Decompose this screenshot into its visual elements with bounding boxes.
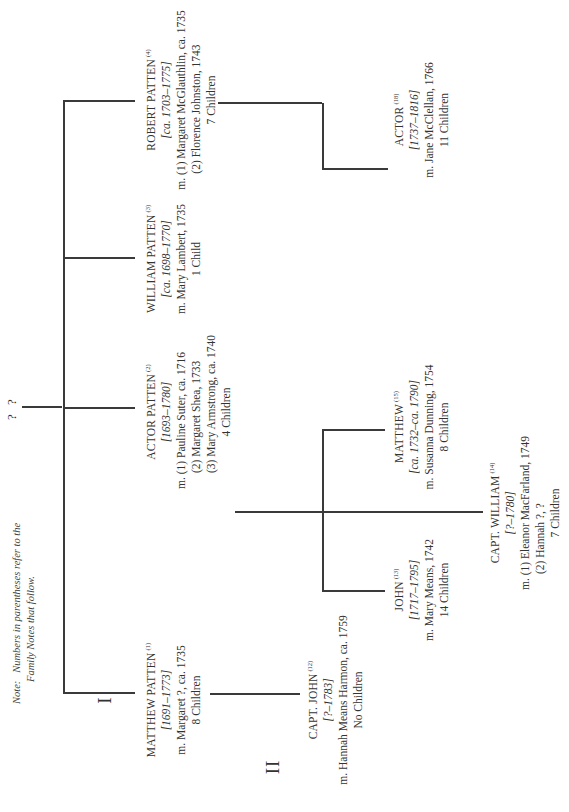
marriage-1: m. Susanna Dunning, 1754	[422, 365, 437, 490]
note-ref: (14)	[488, 463, 495, 474]
children-count: 8 Children	[189, 643, 204, 757]
person-name: ACTOR	[393, 107, 405, 147]
generation-label-1: I	[94, 696, 116, 703]
person-actor: ACTOR(18) [1737–1816] m. Jane McClellan,…	[388, 62, 452, 177]
drop-william-patten	[63, 258, 135, 260]
person-name: CAPT. JOHN	[307, 674, 319, 740]
person-name: MATTHEW	[393, 404, 405, 463]
children-count: 8 Children	[437, 365, 452, 490]
connector-actor-patten-children	[235, 512, 483, 514]
note-ref: (4)	[144, 49, 151, 57]
children-count: 7 Children	[204, 10, 219, 189]
children-count: 11 Children	[437, 62, 452, 177]
note-ref: (18)	[392, 94, 399, 105]
note-ref: (12)	[306, 661, 313, 672]
children-count: 4 Children	[219, 335, 234, 489]
person-name: WILLIAM PATTEN	[145, 215, 157, 314]
drop-matthew	[322, 430, 385, 432]
marriage-2: (2) Margaret Shea, 1733	[189, 335, 204, 489]
person-matthew: MATTHEW(15) [ca. 1732–ca. 1790] m. Susan…	[388, 365, 452, 490]
note-ref: (15)	[392, 391, 399, 402]
person-matthew-patten: MATTHEW PATTEN(1) [1691–1773] m. Margare…	[140, 643, 204, 757]
marriage-2: (2) Hannah ?, ?	[533, 436, 548, 590]
note-line-1: Numbers in parentheses refer to the	[11, 523, 22, 673]
person-dates: [ca. 1703–1775]	[159, 10, 174, 189]
note-ref: (2)	[144, 364, 151, 372]
person-dates: [1737–1816]	[407, 62, 422, 177]
connector-robert-patten-to-actor-a	[218, 103, 322, 105]
generation-1-trunk	[63, 101, 65, 694]
marriage-1: m. Mary Means, 1742	[422, 539, 437, 641]
marriage-1: m. (1) Margaret McGlauthlin, ca. 1735	[174, 10, 189, 189]
drop-matthew-patten	[63, 693, 135, 695]
note-ref: (3)	[144, 205, 151, 213]
person-dates: [1691–1773]	[159, 643, 174, 757]
person-capt-john: CAPT. JOHN(12) [?–1783] m. Hannah Means …	[302, 615, 366, 784]
root-connector	[22, 407, 62, 409]
person-name: ACTOR PATTEN	[145, 374, 157, 460]
children-count: 14 Children	[437, 539, 452, 641]
root-unknown-parents: ? ?	[4, 396, 20, 420]
connector-robert-patten-to-actor-b	[322, 103, 324, 170]
person-name: CAPT. WILLIAM	[489, 476, 501, 564]
person-capt-william: CAPT. WILLIAM(14) [?–1780] m. (1) Eleano…	[484, 436, 563, 590]
drop-robert-patten	[63, 101, 135, 103]
person-dates: [1693–1780]	[159, 335, 174, 489]
person-william-patten: WILLIAM PATTEN(3) [ca. 1698–1770] m. Mar…	[140, 204, 204, 314]
generation-label-2: II	[262, 760, 284, 775]
person-dates: [1717–1795]	[407, 539, 422, 641]
marriage-3: (3) Mary Armstrong, ca. 1740	[204, 335, 219, 489]
footnote-note: Note: Numbers in parentheses refer to th…	[10, 523, 38, 704]
connector-matthew-patten-to-capt-john	[210, 694, 300, 696]
marriage-1: m. Margaret ?, ca. 1735	[174, 643, 189, 757]
note-label: Note:	[11, 681, 22, 704]
marriage-1: m. (1) Eleanor MacFarland, 1749	[518, 436, 533, 590]
note-line-2: Family Notes that follow.	[24, 523, 38, 704]
family-tree-page: Note: Numbers in parentheses refer to th…	[0, 0, 569, 812]
drop-actor-patten-line	[63, 408, 135, 410]
person-dates: [?–1780]	[503, 436, 518, 590]
children-count: No Children	[351, 615, 366, 784]
person-dates: [ca. 1732–ca. 1790]	[407, 365, 422, 490]
marriage-1: m. (1) Pauline Suter, ca. 1716	[174, 335, 189, 489]
person-name: JOHN	[393, 581, 405, 611]
person-robert-patten: ROBERT PATTEN(4) [ca. 1703–1775] m. (1) …	[140, 10, 219, 189]
person-name: MATTHEW PATTEN	[145, 652, 157, 757]
marriage-2: (2) Florence Johnston, 1743	[189, 10, 204, 189]
note-ref: (1)	[144, 643, 151, 651]
connector-robert-patten-to-actor-c	[322, 169, 388, 171]
marriage-1: m. Mary Lambert, 1735	[174, 204, 189, 314]
note-ref: (13)	[392, 568, 399, 579]
children-count: 1 Child	[189, 204, 204, 314]
person-dates: [?–1783]	[321, 615, 336, 784]
person-dates: [ca. 1698–1770]	[159, 204, 174, 314]
person-actor-patten: ACTOR PATTEN(2) [1693–1780] m. (1) Pauli…	[140, 335, 234, 489]
marriage-1: m. Jane McClellan, 1766	[422, 62, 437, 177]
connector-john-matthew-bar	[322, 430, 324, 592]
person-name: ROBERT PATTEN	[145, 59, 157, 151]
drop-john	[322, 591, 385, 593]
person-john: JOHN(13) [1717–1795] m. Mary Means, 1742…	[388, 539, 452, 641]
children-count: 7 Children	[548, 436, 563, 590]
marriage-1: m. Hannah Means Harmon, ca. 1759	[336, 615, 351, 784]
